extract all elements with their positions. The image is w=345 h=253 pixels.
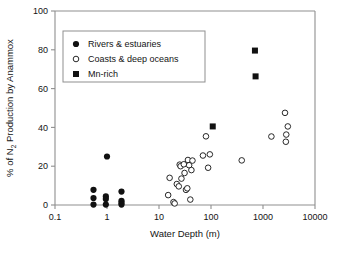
data-point — [207, 152, 213, 158]
x-tick-label: 100 — [203, 212, 218, 222]
data-point — [210, 123, 216, 129]
data-point — [282, 110, 288, 116]
data-point — [203, 134, 209, 140]
data-point — [285, 124, 291, 130]
y-tick-label: 100 — [33, 6, 48, 16]
legend-marker-filled-circle — [73, 41, 79, 47]
legend-item: Coasts & deep oceans — [73, 54, 179, 64]
data-point — [283, 132, 289, 138]
data-point — [118, 202, 124, 208]
legend-label: Rivers & estuaries — [88, 39, 162, 49]
x-tick-label: 1 — [104, 212, 109, 222]
legend-marker-filled-square — [73, 71, 79, 77]
x-tick-label: 10 — [154, 212, 164, 222]
data-point — [283, 139, 289, 145]
data-point — [253, 73, 259, 79]
svg-text:% of N2 Production by Anammox: % of N2 Production by Anammox — [4, 39, 17, 177]
data-point — [118, 189, 124, 195]
y-tick-label: 60 — [38, 84, 48, 94]
data-point — [188, 197, 194, 203]
data-point — [269, 134, 275, 140]
data-point — [200, 153, 206, 159]
data-point — [239, 158, 245, 164]
data-point — [167, 175, 173, 181]
y-tick-label: 80 — [38, 45, 48, 55]
anammox-scatter-chart: 0.1110100100010000 020406080100 Water De… — [0, 0, 345, 253]
y-tick-label: 0 — [43, 200, 48, 210]
y-axis-title-post: Production by Anammox — [4, 39, 15, 145]
data-point — [205, 165, 211, 171]
data-point — [182, 170, 188, 176]
data-point — [252, 48, 258, 54]
y-axis-title: % of N2 Production by Anammox — [4, 39, 17, 177]
legend-label: Mn-rich — [88, 69, 118, 79]
x-tick-label: 1000 — [253, 212, 273, 222]
x-axis-title: Water Depth (m) — [150, 228, 220, 239]
data-point — [103, 196, 109, 202]
y-axis-title-pre: % of N — [4, 148, 15, 177]
legend-label: Coasts & deep oceans — [88, 54, 179, 64]
data-point — [103, 202, 109, 208]
data-point — [172, 201, 178, 207]
y-tick-label: 40 — [38, 123, 48, 133]
legend-marker-open-circle — [73, 56, 79, 62]
data-point — [189, 167, 195, 173]
data-point — [90, 195, 96, 201]
x-tick-label: 10000 — [302, 212, 327, 222]
data-point — [90, 202, 96, 208]
data-point — [190, 158, 196, 164]
data-point — [176, 184, 182, 190]
data-point — [90, 187, 96, 193]
data-point — [104, 153, 110, 159]
data-point — [179, 176, 185, 182]
legend: Rivers & estuariesCoasts & deep oceansMn… — [63, 31, 205, 82]
y-tick-label: 20 — [38, 161, 48, 171]
x-tick-label: 0.1 — [49, 212, 62, 222]
data-point — [184, 186, 190, 192]
data-point — [165, 192, 171, 198]
